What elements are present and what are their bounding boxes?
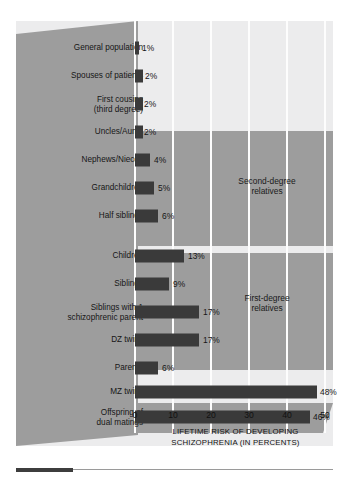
bar xyxy=(135,126,143,139)
bar-value-label: 1% xyxy=(142,43,154,53)
bar-category-label: Half siblings xyxy=(33,211,143,221)
bar-category-label: Spouses of patients xyxy=(33,71,143,81)
bar-category-label: Grandchildren xyxy=(33,183,143,193)
bar-value-label: 6% xyxy=(162,211,174,221)
bar-value-label: 17% xyxy=(203,335,220,345)
bar-value-label: 13% xyxy=(188,251,205,261)
footer-rule-light-segment xyxy=(73,469,333,470)
xtick-label: 40 xyxy=(282,410,292,420)
bar-value-label: 2% xyxy=(144,127,156,137)
xtick-label: 10 xyxy=(168,410,178,420)
bar xyxy=(135,362,158,375)
bar-category-label: DZ twins xyxy=(33,335,143,345)
annotation-first-degree: First-degree relatives xyxy=(212,293,322,313)
bar-value-label: 2% xyxy=(144,99,156,109)
annotation-second-degree: Second-degree relatives xyxy=(212,176,322,196)
xtick-label: 0 xyxy=(133,410,138,420)
bar-value-label: 4% xyxy=(154,155,166,165)
bar-category-label: Siblings xyxy=(33,279,143,289)
bar-row: Uncles/Aunts 2% xyxy=(16,119,333,145)
bar xyxy=(135,42,139,55)
bar xyxy=(135,70,143,83)
footer-rule xyxy=(16,468,333,472)
bar-row: Nephews/Nieces 4% xyxy=(16,147,333,173)
bar-row: Half siblings 6% xyxy=(16,203,333,229)
xtick-label: 50 xyxy=(320,410,330,420)
bar-row: Children 13% xyxy=(16,243,333,269)
bar-category-label: Nephews/Nieces xyxy=(33,155,143,165)
xtick-label: 30 xyxy=(244,410,254,420)
bar xyxy=(135,386,317,399)
bar xyxy=(135,278,169,291)
xtick-label: 20 xyxy=(206,410,216,420)
footer-rule-dark-segment xyxy=(16,468,73,472)
bar-category-label: Uncles/Aunts xyxy=(33,127,143,137)
bar-row: MZ twins 48% xyxy=(16,379,333,405)
bar-value-label: 2% xyxy=(145,71,157,81)
bar-row: Spouses of patients 2% xyxy=(16,63,333,89)
bar-value-label: 5% xyxy=(158,183,170,193)
bar xyxy=(135,334,199,347)
bar-rows: General population 1% Spouses of patient… xyxy=(16,21,333,446)
bar xyxy=(135,250,184,263)
bar-row: DZ twins 17% xyxy=(16,327,333,353)
bar-row: General population 1% xyxy=(16,35,333,61)
bar-value-label: 6% xyxy=(162,363,174,373)
bar-category-label: MZ twins xyxy=(33,387,143,397)
bar-category-label: Siblings with 1 schizophrenic parent xyxy=(33,303,143,322)
bar-value-label: 48% xyxy=(320,387,337,397)
x-axis-title: LIFETIME RISK OF DEVELOPING SCHIZOPHRENI… xyxy=(138,427,333,448)
bar xyxy=(135,98,143,111)
chart-figure: General population 1% Spouses of patient… xyxy=(16,21,333,446)
bar-category-label: First cousins (third degree) xyxy=(33,95,143,114)
bar xyxy=(135,210,158,223)
bar-category-label: Parents xyxy=(33,363,143,373)
bar xyxy=(135,154,150,167)
bar-category-label: Children xyxy=(33,251,143,261)
bar-row: First cousins (third degree) 2% xyxy=(16,91,333,117)
bar xyxy=(135,306,199,319)
bar xyxy=(135,182,154,195)
bar-value-label: 9% xyxy=(173,279,185,289)
bar-category-label: General population xyxy=(33,43,143,53)
bar-category-label: Offspring of dual matings xyxy=(33,408,143,427)
bar-row: Parents 6% xyxy=(16,355,333,381)
